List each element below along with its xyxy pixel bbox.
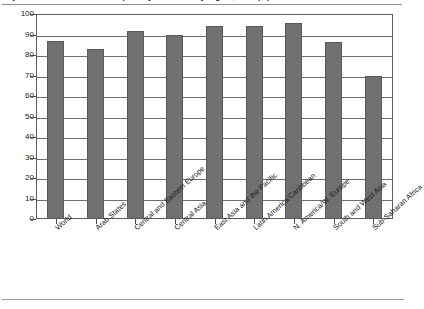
y-axis-tick-mark	[30, 137, 36, 138]
y-axis-tick-mark	[30, 199, 36, 200]
y-axis-tick-mark	[30, 55, 36, 56]
y-axis-tick-mark	[30, 76, 36, 77]
bar	[206, 26, 223, 219]
y-axis-tick-mark	[30, 219, 36, 220]
bottom-divider	[2, 299, 404, 300]
bar	[47, 41, 64, 219]
y-axis-tick-mark	[30, 158, 36, 159]
bar	[87, 49, 104, 219]
y-axis-tick-mark	[30, 117, 36, 118]
y-axis-tick-mark	[30, 178, 36, 179]
bar	[127, 31, 144, 219]
y-axis-tick-mark	[30, 14, 36, 15]
y-axis-tick-mark	[30, 96, 36, 97]
y-axis-tick-mark	[30, 35, 36, 36]
